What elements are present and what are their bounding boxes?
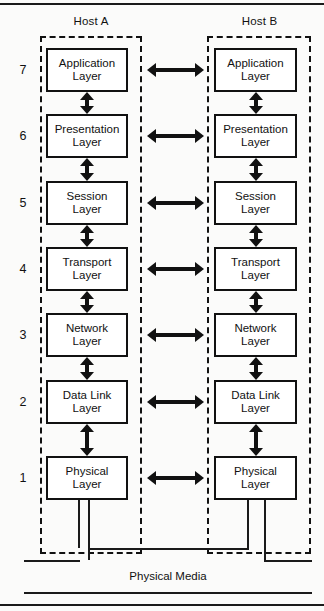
host-a-layer-data-link[interactable]: Data Link Layer bbox=[46, 380, 128, 424]
host-a-media-drop-left bbox=[78, 500, 80, 548]
arrow-head-down-icon bbox=[80, 173, 94, 181]
host-a-layer-transport-line1: Transport bbox=[63, 256, 112, 269]
peer-arrow-physical bbox=[147, 471, 204, 485]
arrow-head-down-icon bbox=[80, 106, 94, 114]
host-a-layer-session[interactable]: Session Layer bbox=[46, 181, 128, 225]
host-b-arrow-4-3 bbox=[249, 291, 263, 313]
host-b-layer-session[interactable]: Session Layer bbox=[214, 181, 297, 225]
arrow-shaft bbox=[154, 333, 197, 337]
arrow-head-down-icon bbox=[249, 305, 263, 313]
peer-arrow-network bbox=[147, 328, 204, 342]
host-b-layer-network[interactable]: Network Layer bbox=[214, 313, 297, 357]
host-b-layer-network-line1: Network bbox=[234, 322, 276, 335]
host-a-layer-physical-line1: Physical bbox=[66, 465, 109, 478]
host-b-arrow-3-2 bbox=[249, 357, 263, 380]
host-a-title: Host A bbox=[41, 15, 141, 27]
media-top-segment-3 bbox=[264, 560, 312, 562]
host-b-layer-transport-line1: Transport bbox=[231, 256, 280, 269]
host-a-arrow-6-5 bbox=[80, 158, 94, 181]
host-b-arrow-6-5 bbox=[249, 158, 263, 181]
host-a-layer-network[interactable]: Network Layer bbox=[46, 313, 128, 357]
host-b-layer-transport-line2: Layer bbox=[241, 269, 270, 282]
arrow-head-down-icon bbox=[249, 448, 263, 456]
host-a-arrow-7-6 bbox=[80, 92, 94, 114]
arrow-shaft bbox=[154, 476, 197, 480]
arrow-head-right-icon bbox=[195, 129, 204, 143]
host-b-layer-transport[interactable]: Transport Layer bbox=[214, 247, 297, 291]
host-a-layer-application-line2: Layer bbox=[73, 70, 102, 83]
peer-arrow-presentation bbox=[147, 129, 204, 143]
host-a-layer-physical[interactable]: Physical Layer bbox=[46, 456, 128, 500]
host-a-layer-session-line1: Session bbox=[67, 190, 108, 203]
arrow-shaft bbox=[154, 68, 197, 72]
host-b-layer-physical[interactable]: Physical Layer bbox=[214, 456, 297, 500]
layer-number-5: 5 bbox=[14, 196, 32, 210]
media-bottom-line bbox=[24, 592, 312, 594]
host-a-layer-application[interactable]: Application Layer bbox=[46, 48, 128, 92]
layer-number-1: 1 bbox=[14, 471, 32, 485]
host-a-layer-presentation-line1: Presentation bbox=[55, 123, 120, 136]
host-a-arrow-2-1 bbox=[80, 424, 94, 456]
host-b-layer-presentation[interactable]: Presentation Layer bbox=[214, 114, 297, 158]
host-a-layer-presentation[interactable]: Presentation Layer bbox=[46, 114, 128, 158]
layer-number-4: 4 bbox=[14, 262, 32, 276]
arrow-head-right-icon bbox=[195, 395, 204, 409]
page-rule-bottom bbox=[0, 604, 324, 606]
host-a-layer-session-line2: Layer bbox=[73, 203, 102, 216]
host-b-layer-application-line1: Application bbox=[227, 57, 283, 70]
arrow-head-right-icon bbox=[195, 471, 204, 485]
host-b-layer-data-link-line1: Data Link bbox=[231, 389, 280, 402]
arrow-head-down-icon bbox=[80, 305, 94, 313]
host-a-layer-network-line1: Network bbox=[66, 322, 108, 335]
arrow-shaft bbox=[154, 400, 197, 404]
host-b-arrow-5-4 bbox=[249, 225, 263, 247]
host-a-layer-physical-line2: Layer bbox=[73, 478, 102, 491]
layer-number-6: 6 bbox=[14, 129, 32, 143]
host-a-media-drop-right bbox=[88, 500, 90, 560]
layer-number-7: 7 bbox=[14, 63, 32, 77]
page-rule-top bbox=[0, 3, 324, 5]
host-a-layer-transport-line2: Layer bbox=[73, 269, 102, 282]
host-b-layer-presentation-line2: Layer bbox=[241, 136, 270, 149]
arrow-head-right-icon bbox=[195, 63, 204, 77]
host-b-layer-data-link-line2: Layer bbox=[241, 402, 270, 415]
host-b-title: Host B bbox=[208, 15, 311, 27]
arrow-shaft bbox=[154, 134, 197, 138]
arrow-shaft bbox=[154, 267, 197, 271]
host-a-layer-application-line1: Application bbox=[59, 57, 115, 70]
arrow-head-down-icon bbox=[249, 173, 263, 181]
arrow-head-down-icon bbox=[80, 372, 94, 380]
media-mid-segment bbox=[88, 548, 249, 550]
host-b-layer-data-link[interactable]: Data Link Layer bbox=[214, 380, 297, 424]
peer-arrow-data-link bbox=[147, 395, 204, 409]
host-a-arrow-3-2 bbox=[80, 357, 94, 380]
host-b-media-drop-left bbox=[247, 500, 249, 548]
arrow-shaft bbox=[154, 201, 197, 205]
arrow-head-down-icon bbox=[249, 239, 263, 247]
host-a-arrow-5-4 bbox=[80, 225, 94, 247]
host-a-layer-data-link-line1: Data Link bbox=[63, 389, 112, 402]
host-b-layer-application[interactable]: Application Layer bbox=[214, 48, 297, 92]
host-b-layer-application-line2: Layer bbox=[241, 70, 270, 83]
host-a-layer-network-line2: Layer bbox=[73, 335, 102, 348]
host-a-layer-presentation-line2: Layer bbox=[73, 136, 102, 149]
host-b-media-drop-right bbox=[264, 500, 266, 560]
host-b-layer-session-line2: Layer bbox=[241, 203, 270, 216]
media-top-segment-1 bbox=[24, 560, 80, 562]
osi-model-diagram: Host A Host B 7 6 5 4 3 2 1 Application … bbox=[0, 0, 324, 611]
host-b-layer-physical-line2: Layer bbox=[241, 478, 270, 491]
peer-arrow-application bbox=[147, 63, 204, 77]
physical-media-label: Physical Media bbox=[24, 570, 312, 582]
host-a-arrow-4-3 bbox=[80, 291, 94, 313]
arrow-head-right-icon bbox=[195, 262, 204, 276]
arrow-head-down-icon bbox=[249, 372, 263, 380]
arrow-head-down-icon bbox=[80, 239, 94, 247]
host-b-arrow-7-6 bbox=[249, 92, 263, 114]
host-a-layer-transport[interactable]: Transport Layer bbox=[46, 247, 128, 291]
host-b-arrow-2-1 bbox=[249, 424, 263, 456]
host-a-layer-data-link-line2: Layer bbox=[73, 402, 102, 415]
peer-arrow-session bbox=[147, 196, 204, 210]
layer-number-2: 2 bbox=[14, 395, 32, 409]
host-b-layer-physical-line1: Physical bbox=[234, 465, 277, 478]
arrow-head-right-icon bbox=[195, 328, 204, 342]
